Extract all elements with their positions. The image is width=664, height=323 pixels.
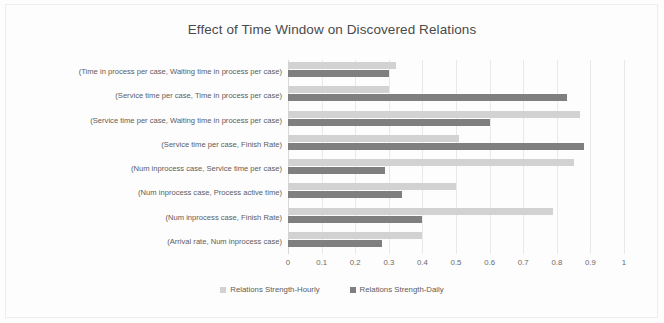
x-tick-label: 0.2 <box>350 258 361 267</box>
x-tick-label: 0.5 <box>451 258 462 267</box>
bar-hourly <box>288 208 553 215</box>
category-label: (Time in process per case, Waiting time … <box>18 67 282 76</box>
x-tick-label: 0.6 <box>484 258 495 267</box>
bar-group <box>288 60 624 84</box>
category-label: (Num inprocess case, Finish Rate) <box>18 213 282 222</box>
bar-daily <box>288 119 490 126</box>
x-tick-label: 0.1 <box>316 258 327 267</box>
x-tick-label: 0.8 <box>551 258 562 267</box>
chart-title: Effect of Time Window on Discovered Rela… <box>0 22 664 37</box>
bar-group <box>288 157 624 181</box>
gridline <box>624 60 625 254</box>
bar-hourly <box>288 135 459 142</box>
bar-hourly <box>288 232 422 239</box>
bar-group <box>288 109 624 133</box>
x-tick-label: 0.3 <box>383 258 394 267</box>
chart-container: Effect of Time Window on Discovered Rela… <box>0 0 664 323</box>
bar-daily <box>288 191 402 198</box>
x-tick-label: 1 <box>622 258 626 267</box>
bar-hourly <box>288 86 389 93</box>
x-tick-label: 0 <box>286 258 290 267</box>
bar-group <box>288 206 624 230</box>
legend-item[interactable]: Relations Strength-Daily <box>350 285 444 294</box>
bar-group <box>288 133 624 157</box>
bar-daily <box>288 216 422 223</box>
legend-swatch-icon <box>350 287 356 293</box>
bar-hourly <box>288 183 456 190</box>
y-axis-category-labels: (Time in process per case, Waiting time … <box>18 60 282 254</box>
category-label: (Num inprocess case, Service time per ca… <box>18 164 282 173</box>
legend-label: Relations Strength-Hourly <box>230 285 319 294</box>
category-label: (Service time per case, Time in process … <box>18 91 282 100</box>
category-label: (Num inprocess case, Process active time… <box>18 188 282 197</box>
x-axis-tick-labels: 00.10.20.30.40.50.60.70.80.91 <box>288 258 624 272</box>
legend-label: Relations Strength-Daily <box>360 285 444 294</box>
x-tick-label: 0.7 <box>518 258 529 267</box>
x-tick-label: 0.4 <box>417 258 428 267</box>
category-label: (Service time per case, Waiting time in … <box>18 116 282 125</box>
chart-legend: Relations Strength-HourlyRelations Stren… <box>0 285 664 294</box>
bar-daily <box>288 240 382 247</box>
bar-daily <box>288 70 389 77</box>
bar-series-group <box>288 60 624 254</box>
category-label: (Arrival rate, Num inprocess case) <box>18 237 282 246</box>
x-tick-label: 0.9 <box>585 258 596 267</box>
bar-daily <box>288 167 385 174</box>
legend-swatch-icon <box>220 287 226 293</box>
bar-daily <box>288 94 567 101</box>
bar-daily <box>288 143 584 150</box>
bar-hourly <box>288 159 574 166</box>
plot-area <box>288 60 624 254</box>
bar-group <box>288 84 624 108</box>
bar-hourly <box>288 62 396 69</box>
bar-hourly <box>288 111 580 118</box>
category-label: (Service time per case, Finish Rate) <box>18 140 282 149</box>
bar-group <box>288 181 624 205</box>
legend-item[interactable]: Relations Strength-Hourly <box>220 285 319 294</box>
bar-group <box>288 230 624 254</box>
